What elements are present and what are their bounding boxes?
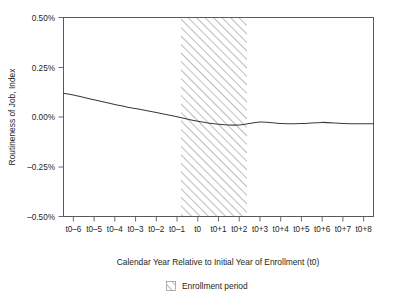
x-tick-label: t0+8 bbox=[356, 225, 373, 234]
routineness-of-job-line-chart: 0.50% 0.25% 0.00% –0.25% –0.50% Routinen… bbox=[0, 0, 394, 303]
x-axis-ticks bbox=[73, 217, 363, 222]
enrollment-period-band bbox=[181, 17, 247, 217]
x-tick-label: t0+5 bbox=[293, 225, 310, 234]
x-tick-label: t0–3 bbox=[128, 225, 144, 234]
y-tick-label: 0.50% bbox=[32, 14, 55, 23]
legend-swatch-enrollment-period bbox=[167, 282, 176, 291]
x-tick-label: t0+2 bbox=[231, 225, 248, 234]
x-axis-tick-labels: t0–6t0–5t0–4t0–3t0–2t0–1t0t0+1t0+2t0+3t0… bbox=[65, 225, 372, 234]
x-tick-label: t0+6 bbox=[314, 225, 331, 234]
legend-label-enrollment-period: Enrollment period bbox=[182, 281, 248, 291]
y-axis-tick-labels: 0.50% 0.25% 0.00% –0.25% –0.50% bbox=[27, 14, 55, 222]
x-axis-title: Calendar Year Relative to Initial Year o… bbox=[117, 257, 320, 267]
y-axis-title: Routineness of Job, Index bbox=[7, 68, 17, 166]
x-tick-label: t0+4 bbox=[273, 225, 290, 234]
y-axis-ticks bbox=[59, 18, 64, 217]
x-tick-label: t0+1 bbox=[210, 225, 227, 234]
y-tick-label: 0.00% bbox=[32, 113, 55, 122]
x-tick-label: t0–5 bbox=[86, 225, 102, 234]
x-tick-label: t0+7 bbox=[335, 225, 352, 234]
y-tick-label: –0.25% bbox=[27, 163, 55, 172]
x-tick-label: t0–6 bbox=[65, 225, 81, 234]
x-tick-label: t0 bbox=[194, 225, 201, 234]
y-tick-label: –0.50% bbox=[27, 213, 55, 222]
x-tick-label: t0+3 bbox=[252, 225, 269, 234]
x-tick-label: t0–1 bbox=[169, 225, 185, 234]
x-tick-label: t0–4 bbox=[107, 225, 123, 234]
legend: Enrollment period bbox=[167, 281, 248, 291]
x-tick-label: t0–2 bbox=[148, 225, 164, 234]
y-tick-label: 0.25% bbox=[32, 64, 55, 73]
